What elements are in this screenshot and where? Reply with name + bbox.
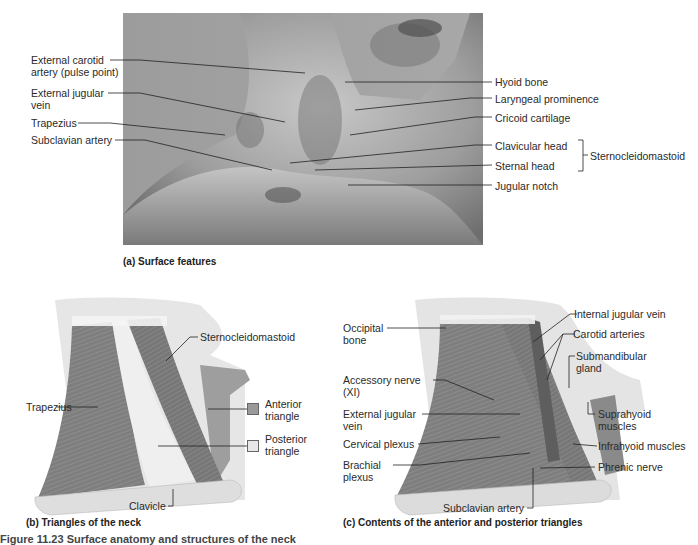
label-subclavian-artery-c: Subclavian artery [443, 502, 524, 514]
label-sternal-head: Sternal head [495, 160, 555, 172]
label-line: plexus [343, 471, 381, 483]
label-sternocleidomastoid-b: Sternocleidomastoid [200, 331, 295, 343]
label-accessory-nerve: Accessory nerve (XI) [343, 374, 421, 398]
label-hyoid-bone: Hyoid bone [495, 76, 548, 88]
label-phrenic-nerve: Phrenic nerve [598, 461, 663, 473]
label-cervical-plexus: Cervical plexus [343, 438, 414, 450]
label-jugular-notch: Jugular notch [495, 180, 558, 192]
label-line: External carotid [31, 54, 119, 66]
caption-triangles-of-neck: (b) Triangles of the neck [26, 517, 141, 528]
figure-caption: Figure 11.23 Surface anatomy and structu… [0, 533, 296, 545]
label-cricoid-cartilage: Cricoid cartilage [495, 112, 570, 124]
label-line: Occipital [343, 322, 383, 334]
label-line: Suprahyoid [598, 408, 651, 420]
label-line: vein [343, 420, 416, 432]
caption-triangle-contents: (c) Contents of the anterior and posteri… [343, 517, 582, 528]
label-line: Accessory nerve [343, 374, 421, 386]
label-line: triangle [265, 445, 307, 457]
label-line: Posterior [265, 433, 307, 445]
label-line: triangle [265, 410, 302, 422]
label-submandibular-gland: Submandibular gland [576, 350, 647, 374]
label-external-jugular-vein-c: External jugular vein [343, 408, 416, 432]
label-clavicular-head: Clavicular head [495, 140, 567, 152]
label-line: Submandibular [576, 350, 647, 362]
label-trapezius-b: Trapezius [26, 401, 72, 413]
label-occipital-bone: Occipital bone [343, 322, 383, 346]
surface-features-photo [123, 13, 483, 245]
label-brachial-plexus: Brachial plexus [343, 459, 381, 483]
label-trapezius-a: Trapezius [31, 117, 77, 129]
label-line: External jugular [343, 408, 416, 420]
label-suprahyoid-muscles: Suprahyoid muscles [598, 408, 651, 432]
label-line: bone [343, 334, 383, 346]
label-laryngeal-prominence: Laryngeal prominence [495, 93, 599, 105]
label-subclavian-artery-a: Subclavian artery [31, 134, 112, 146]
label-line: (XI) [343, 386, 421, 398]
label-internal-jugular-vein: Internal jugular vein [574, 308, 666, 320]
label-infrahyoid-muscles: Infrahyoid muscles [598, 440, 686, 452]
label-line: gland [576, 362, 647, 374]
label-line: External jugular [31, 87, 104, 99]
label-line: Brachial [343, 459, 381, 471]
label-sternocleidomastoid-bracket: Sternocleidomastoid [590, 150, 685, 162]
caption-surface-features: (a) Surface features [123, 256, 216, 267]
label-clavicle: Clavicle [129, 500, 166, 512]
label-line: artery (pulse point) [31, 66, 119, 78]
label-line: Anterior [265, 398, 302, 410]
legend-anterior-triangle: Anterior triangle [265, 398, 302, 422]
label-carotid-arteries: Carotid arteries [573, 328, 645, 340]
posterior-triangle-swatch [247, 440, 259, 452]
label-line: muscles [598, 420, 651, 432]
anterior-triangle-swatch [247, 403, 259, 415]
label-line: vein [31, 99, 104, 111]
legend-posterior-triangle: Posterior triangle [265, 433, 307, 457]
label-external-jugular-vein-a: External jugular vein [31, 87, 104, 111]
label-external-carotid-artery: External carotid artery (pulse point) [31, 54, 119, 78]
